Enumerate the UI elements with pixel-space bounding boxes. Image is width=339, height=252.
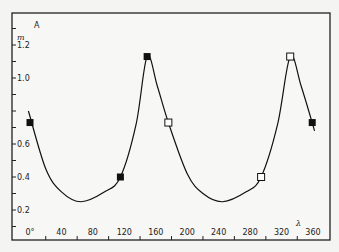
x-tick-label: 320	[274, 228, 289, 237]
x-axis-label: λ	[295, 219, 301, 228]
x-tick-label: 360	[305, 228, 320, 237]
open-square-marker	[165, 119, 172, 126]
y-tick-label: 0.6	[17, 140, 30, 149]
x-tick-label: 80	[88, 228, 98, 237]
y-tick-label: 1.2	[17, 41, 30, 50]
x-tick-label: 240	[211, 228, 226, 237]
panel-label: A	[34, 21, 40, 30]
open-square-marker	[287, 53, 294, 60]
y-tick-label: 0.4	[17, 173, 30, 182]
x-tick-label: 200	[180, 228, 195, 237]
x-tick-label: 0°	[25, 228, 34, 237]
filled-square-marker	[309, 119, 316, 126]
chart: 0.20.40.61.01.2 0°4080120160200240280320…	[0, 0, 339, 252]
y-axis-label: m	[17, 33, 25, 42]
open-square-marker	[258, 174, 265, 181]
filled-square-marker	[27, 119, 34, 126]
y-tick-label: 1.0	[17, 74, 30, 83]
x-tick-label: 40	[56, 228, 66, 237]
filled-square-marker	[117, 174, 124, 181]
x-tick-label: 160	[148, 228, 163, 237]
filled-square-marker	[144, 53, 151, 60]
x-tick-label: 120	[117, 228, 132, 237]
x-tick-label: 280	[242, 228, 257, 237]
y-tick-label: 0.2	[17, 206, 30, 215]
